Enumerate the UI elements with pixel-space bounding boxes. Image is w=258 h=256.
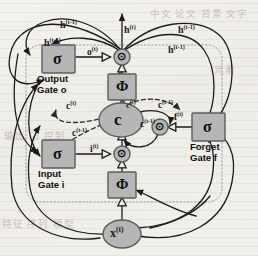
label-c-t-dash: c(t) <box>66 101 76 112</box>
forget-gate-caption: Forget Gate f <box>190 142 220 163</box>
output-gate-sigma: σ <box>53 51 62 67</box>
input-gate-line1: Input <box>38 168 61 179</box>
label-c-prev-left: c(t-1) <box>72 128 87 139</box>
edge-right-to-phi-bottom <box>136 190 196 216</box>
input-gate-line2: Gate i <box>38 179 64 190</box>
label-h-rec-right2: h(t-1) <box>168 44 185 55</box>
mult-input-symbol: ⊙ <box>117 148 126 159</box>
label-o-t-sup: (t) <box>92 46 98 52</box>
cell-state-label: c <box>114 111 122 128</box>
label-c-prev-mid: c(t-1) <box>140 119 155 130</box>
label-h-out: h(t) <box>124 24 136 35</box>
label-c-t-up: c(t) <box>126 100 136 110</box>
mult-output-symbol: ⊙ <box>117 51 126 62</box>
input-gate-sigma: σ <box>53 146 62 162</box>
label-c-prev-right: c(t-1) <box>158 100 173 111</box>
label-c-prev-left-sup: (t-1) <box>76 127 87 133</box>
label-c-t-up-sup: (t) <box>130 99 136 105</box>
label-h-rec-right2-sup: (t-1) <box>174 43 185 50</box>
label-h-rec-left2: h(t-1) <box>44 37 61 48</box>
output-gate-line1: Output <box>37 73 68 84</box>
output-gate-line2: Gate o <box>37 84 67 95</box>
forget-gate-sigma: σ <box>203 119 212 135</box>
label-i-t-sup: (t) <box>93 143 99 149</box>
label-o-t: o(t) <box>87 47 98 58</box>
output-gate-caption: Output Gate o <box>37 74 68 95</box>
label-c-t-dash-sup: (t) <box>70 100 76 106</box>
label-h-rec-left-sup: (t-1) <box>66 18 77 25</box>
phi-bottom-symbol: Φ <box>116 177 128 192</box>
diagram-canvas <box>0 0 258 256</box>
input-x-sup: (t) <box>116 225 123 234</box>
phi-top-symbol: Φ <box>116 79 128 94</box>
label-i-t: i(t) <box>90 144 99 155</box>
label-h-rec-right-sup: (t-1) <box>184 23 195 30</box>
label-h-out-sup: (t) <box>130 23 136 30</box>
input-gate-caption: Input Gate i <box>38 169 64 190</box>
edge-h-recurrent-right-outer <box>122 23 232 120</box>
mult-forget-symbol: ⊙ <box>155 121 164 132</box>
label-h-rec-left2-sup: (t-1) <box>50 36 61 43</box>
lstm-diagram: 中文 论文 背景 文字 元素 输出 门 控制 特征 序列 模型 <box>0 0 258 256</box>
label-f-t: f(t) <box>174 112 183 123</box>
label-c-prev-mid-sup: (t-1) <box>144 118 155 124</box>
input-x-label: x(t) <box>110 226 123 239</box>
label-f-t-sup: (t) <box>177 111 183 117</box>
label-c-prev-right-sup: (t-1) <box>162 99 173 105</box>
label-h-rec-left: h(t-1) <box>60 19 77 30</box>
label-h-rec-right: h(t-1) <box>178 24 195 35</box>
forget-gate-line1: Forget <box>190 141 220 152</box>
forget-gate-line2: Gate f <box>190 152 217 163</box>
